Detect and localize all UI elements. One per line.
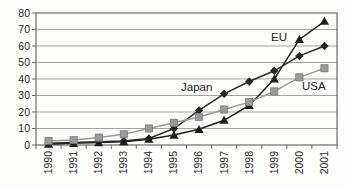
svg-text:1998: 1998 xyxy=(243,151,255,175)
svg-text:1991: 1991 xyxy=(67,151,79,175)
svg-text:1992: 1992 xyxy=(92,151,104,175)
svg-text:2000: 2000 xyxy=(293,151,305,175)
svg-text:50: 50 xyxy=(18,56,30,68)
svg-text:2001: 2001 xyxy=(318,151,330,175)
svg-text:1996: 1996 xyxy=(192,151,204,175)
svg-text:1990: 1990 xyxy=(42,151,54,175)
series-label-usa: USA xyxy=(302,80,326,92)
svg-text:1997: 1997 xyxy=(218,151,230,175)
svg-text:1999: 1999 xyxy=(268,151,280,175)
svg-text:40: 40 xyxy=(18,73,30,85)
svg-text:80: 80 xyxy=(18,7,30,19)
svg-text:1994: 1994 xyxy=(142,151,154,175)
svg-text:1995: 1995 xyxy=(167,151,179,175)
svg-text:60: 60 xyxy=(18,40,30,52)
svg-text:70: 70 xyxy=(18,23,30,35)
svg-text:20: 20 xyxy=(18,106,30,118)
svg-text:1993: 1993 xyxy=(117,151,129,175)
series-label-japan: Japan xyxy=(181,81,212,93)
svg-text:30: 30 xyxy=(18,89,30,101)
svg-text:0: 0 xyxy=(24,139,30,151)
line-chart: 0102030405060708019901991199219931994199… xyxy=(0,0,345,188)
plot-area: 0102030405060708019901991199219931994199… xyxy=(0,0,345,188)
svg-text:10: 10 xyxy=(18,122,30,134)
series-label-eu: EU xyxy=(271,31,287,43)
scanned-chart-page: 0102030405060708019901991199219931994199… xyxy=(0,0,345,188)
